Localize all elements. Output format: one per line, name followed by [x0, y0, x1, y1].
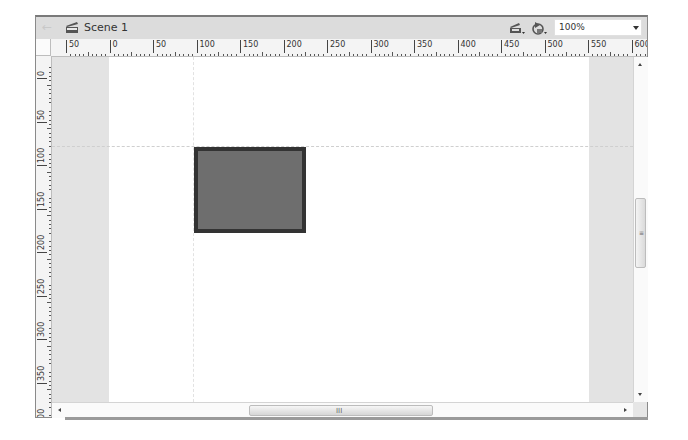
vertical-ruler[interactable]: 050100150200250300350400: [36, 56, 52, 417]
back-arrow-icon[interactable]: ←: [42, 20, 56, 34]
grip-icon: ≡: [639, 230, 644, 236]
scroll-up-icon[interactable]: [638, 63, 642, 66]
ruler-tick: [645, 54, 646, 56]
ruler-tick: [397, 54, 398, 56]
ruler-tick: [49, 159, 51, 160]
ruler-tick: [49, 263, 51, 264]
ruler-tick: [70, 54, 71, 56]
ruler-tick: [357, 54, 358, 56]
ruler-tick: [236, 54, 237, 56]
ruler-tick: [49, 163, 51, 164]
ruler-tick: [49, 341, 51, 342]
ruler-tick: [353, 54, 354, 56]
ruler-tick: [49, 111, 51, 112]
pasteboard[interactable]: [52, 57, 633, 402]
scroll-right-icon[interactable]: [624, 408, 627, 412]
ruler-tick: [114, 54, 115, 56]
edit-scene-icon[interactable]: [508, 21, 526, 35]
ruler-tick: [562, 54, 563, 56]
ruler-tick: [149, 54, 150, 56]
vertical-scrollbar[interactable]: ≡: [633, 57, 648, 402]
ruler-tick: [192, 54, 193, 56]
ruler-tick: [575, 54, 576, 56]
ruler-tick: [49, 185, 51, 186]
edit-symbols-icon[interactable]: [530, 21, 548, 35]
ruler-label: 150: [37, 191, 47, 209]
ruler-tick: [49, 220, 51, 221]
ruler-label: 300: [371, 40, 389, 53]
ruler-tick: [592, 54, 593, 56]
ruler-label: 0: [110, 40, 118, 53]
ruler-label: 100: [197, 40, 215, 53]
horizontal-ruler[interactable]: 50050100150200250300350400450500550600: [51, 39, 647, 57]
ruler-tick: [523, 52, 524, 56]
ruler-label: 50: [37, 109, 47, 122]
ruler-tick: [601, 54, 602, 56]
ruler-tick: [223, 54, 224, 56]
ruler-tick: [479, 52, 480, 56]
ruler-tick: [49, 102, 51, 103]
ruler-tick: [362, 54, 363, 56]
ruler-tick: [375, 54, 376, 56]
horizontal-guide[interactable]: [52, 146, 633, 147]
ruler-tick: [49, 146, 51, 147]
horizontal-scrollbar[interactable]: III: [52, 402, 633, 418]
ruler-tick: [75, 54, 76, 56]
ruler-tick: [297, 54, 298, 56]
ruler-tick: [453, 54, 454, 56]
vertical-scroll-thumb[interactable]: ≡: [635, 198, 646, 268]
ruler-tick: [49, 315, 51, 316]
scroll-down-icon[interactable]: [638, 393, 642, 396]
ruler-label: 400: [37, 409, 47, 417]
rectangle-shape[interactable]: [194, 147, 306, 233]
ruler-tick: [49, 385, 51, 386]
ruler-label: 300: [37, 322, 47, 340]
ruler-tick: [262, 52, 263, 56]
ruler-tick: [505, 54, 506, 56]
ruler-tick: [227, 54, 228, 56]
clapperboard-icon: [65, 21, 79, 34]
ruler-tick: [47, 389, 51, 390]
ruler-tick: [140, 54, 141, 56]
ruler-tick: [314, 54, 315, 56]
ruler-tick: [349, 52, 350, 56]
ruler-tick: [475, 54, 476, 56]
ruler-tick: [49, 328, 51, 329]
ruler-tick: [49, 80, 51, 81]
ruler-tick: [49, 115, 51, 116]
ruler-tick: [47, 259, 51, 260]
ruler-tick: [401, 54, 402, 56]
ruler-tick: [49, 337, 51, 338]
scroll-left-icon[interactable]: [58, 408, 61, 412]
ruler-tick: [579, 54, 580, 56]
ruler-tick: [162, 54, 163, 56]
ruler-label: 50: [66, 40, 79, 53]
ruler-tick: [344, 54, 345, 56]
ruler-tick: [183, 54, 184, 56]
ruler-tick: [49, 207, 51, 208]
ruler-tick: [340, 54, 341, 56]
ruler-tick: [49, 233, 51, 234]
ruler-tick: [127, 54, 128, 56]
ruler-tick: [49, 407, 51, 408]
stage[interactable]: [109, 57, 589, 402]
scene-label[interactable]: Scene 1: [84, 20, 128, 35]
ruler-tick: [49, 320, 51, 321]
ruler-tick: [214, 54, 215, 56]
ruler-tick: [471, 54, 472, 56]
ruler-tick: [49, 246, 51, 247]
ruler-tick: [131, 52, 132, 56]
zoom-select[interactable]: 100%: [554, 19, 642, 36]
ruler-tick: [49, 359, 51, 360]
ruler-tick: [627, 54, 628, 56]
ruler-tick: [118, 54, 119, 56]
ruler-tick: [49, 298, 51, 299]
ruler-tick: [484, 54, 485, 56]
ruler-tick: [305, 52, 306, 56]
ruler-label: 400: [458, 40, 476, 53]
ruler-label: 200: [284, 40, 302, 53]
chevron-down-icon[interactable]: [633, 26, 639, 30]
ruler-tick: [49, 267, 51, 268]
horizontal-scroll-thumb[interactable]: III: [249, 405, 433, 416]
ruler-tick: [518, 54, 519, 56]
